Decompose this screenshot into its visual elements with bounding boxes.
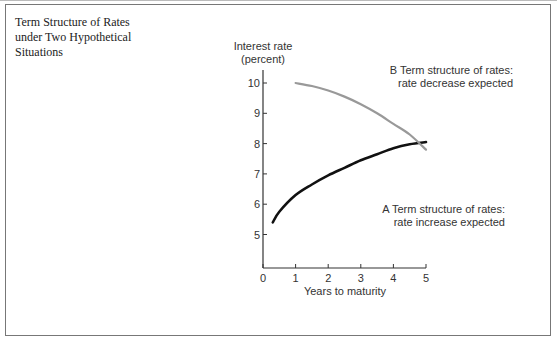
x-tick-label: 1	[293, 272, 299, 284]
axes: 5678910012345	[248, 70, 429, 284]
y-tick-label: 5	[254, 229, 260, 241]
y-tick-label: 8	[254, 138, 260, 150]
x-tick-label: 5	[423, 272, 429, 284]
y-tick-label: 10	[248, 77, 260, 89]
y-tick-label: 9	[254, 107, 260, 119]
series-group	[273, 83, 426, 222]
y-tick-label: 6	[254, 198, 260, 210]
x-tick-label: 2	[325, 272, 331, 284]
series-a-label: rate increase expected	[394, 216, 505, 228]
y-axis-label-line1: Interest rate	[234, 40, 293, 52]
series-b-label: B Term structure of rates:	[390, 64, 513, 76]
x-tick-label: 4	[390, 272, 396, 284]
x-axis-label: Years to maturity	[304, 285, 387, 297]
series-a-label: A Term structure of rates:	[382, 203, 505, 215]
line-chart: Interest rate (percent) 5678910012345 A …	[0, 0, 557, 354]
series-b-line	[296, 83, 426, 150]
y-tick-label: 7	[254, 168, 260, 180]
y-axis-label-line2: (percent)	[241, 53, 285, 65]
x-tick-label: 0	[260, 272, 266, 284]
x-tick-label: 3	[358, 272, 364, 284]
series-b-label: rate decrease expected	[398, 77, 513, 89]
